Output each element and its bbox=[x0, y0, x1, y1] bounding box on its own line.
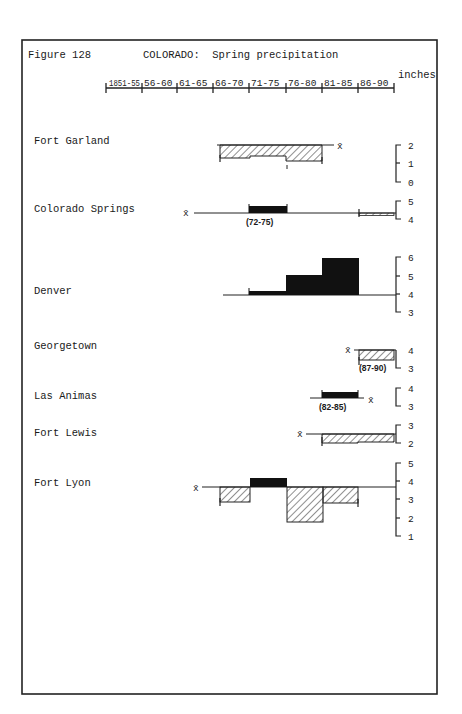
mean-marker: x̄ bbox=[297, 429, 303, 440]
series-fort-lewis: x̄ bbox=[297, 429, 396, 446]
axis-tick-label: 81-85 bbox=[324, 78, 353, 89]
mean-marker: x̄ bbox=[337, 141, 343, 152]
mean-marker: x̄ bbox=[368, 395, 374, 406]
svg-text:3: 3 bbox=[408, 308, 414, 319]
figure-number: Figure 128 bbox=[28, 49, 91, 61]
svg-text:6: 6 bbox=[408, 253, 414, 264]
svg-text:3: 3 bbox=[408, 364, 414, 375]
axis-tick-label: 56-60 bbox=[144, 78, 173, 89]
scale-labels: 2 1 0 5 4 6 5 4 3 4 3 4 3 3 2 5 4 3 2 1 bbox=[408, 141, 414, 543]
figure-title: COLORADO: Spring precipitation bbox=[143, 49, 338, 61]
station-label-las-animas: Las Animas bbox=[34, 390, 97, 402]
mean-marker: x̄ bbox=[193, 483, 199, 494]
svg-text:3: 3 bbox=[408, 402, 414, 413]
period-note: (82-85) bbox=[319, 402, 347, 412]
axis-tick-label: 1851-55 bbox=[109, 78, 140, 89]
svg-text:4: 4 bbox=[408, 477, 414, 488]
axis-tick-label: 66-70 bbox=[215, 78, 244, 89]
station-label-denver: Denver bbox=[34, 285, 72, 297]
series-colorado-springs: x̄ (72-75) bbox=[183, 204, 396, 227]
series-georgetown: x̄ (87-90) bbox=[345, 345, 396, 373]
axis-tick-label: 61-65 bbox=[179, 78, 208, 89]
svg-text:5: 5 bbox=[408, 459, 414, 470]
mean-marker: x̄ bbox=[183, 208, 189, 219]
units-label: inches bbox=[398, 69, 436, 81]
station-label-fort-garland: Fort Garland bbox=[34, 135, 110, 147]
series-fort-lyon: x̄ bbox=[193, 478, 396, 522]
figure-128-chart: Figure 128 COLORADO: Spring precipitatio… bbox=[0, 0, 462, 714]
period-note: (87-90) bbox=[359, 363, 387, 373]
svg-text:2: 2 bbox=[408, 439, 414, 450]
station-label-fort-lewis: Fort Lewis bbox=[34, 427, 97, 439]
svg-text:2: 2 bbox=[408, 514, 414, 525]
series-fort-garland: x̄ bbox=[217, 141, 343, 169]
scale-brackets bbox=[396, 145, 401, 536]
station-label-fort-lyon: Fort Lyon bbox=[34, 477, 91, 489]
axis-tick-label: 71-75 bbox=[251, 78, 280, 89]
svg-text:4: 4 bbox=[408, 384, 414, 395]
axis-tick-label: 86-90 bbox=[360, 78, 389, 89]
period-note: (72-75) bbox=[246, 217, 274, 227]
axis-tick-label: 76-80 bbox=[288, 78, 317, 89]
svg-text:5: 5 bbox=[408, 197, 414, 208]
svg-text:0: 0 bbox=[408, 178, 414, 189]
mean-marker: x̄ bbox=[345, 345, 351, 356]
svg-text:4: 4 bbox=[408, 290, 414, 301]
svg-text:4: 4 bbox=[408, 346, 414, 357]
station-label-colorado-springs: Colorado Springs bbox=[34, 203, 135, 215]
station-label-georgetown: Georgetown bbox=[34, 340, 97, 352]
svg-text:1: 1 bbox=[408, 159, 414, 170]
svg-text:4: 4 bbox=[408, 215, 414, 226]
svg-text:3: 3 bbox=[408, 421, 414, 432]
series-denver bbox=[223, 258, 396, 295]
svg-text:3: 3 bbox=[408, 495, 414, 506]
time-axis: 1851-55 56-60 61-65 66-70 71-75 76-80 81… bbox=[106, 78, 394, 93]
series-las-animas: x̄ (82-85) bbox=[310, 390, 374, 412]
svg-text:1: 1 bbox=[408, 532, 414, 543]
svg-text:2: 2 bbox=[408, 141, 414, 152]
svg-text:5: 5 bbox=[408, 272, 414, 283]
